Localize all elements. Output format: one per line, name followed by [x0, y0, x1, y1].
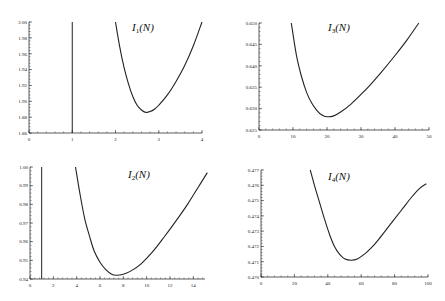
x-tick-label: 2	[114, 137, 117, 142]
x-tick-label: 60	[359, 281, 365, 286]
y-tick-label: 1.00	[19, 165, 28, 170]
y-tick-label: 1.96	[18, 52, 27, 57]
x-tick-label: 10	[144, 283, 150, 288]
x-tick-label: 4	[75, 283, 78, 288]
x-tick-label: 30	[359, 134, 365, 139]
y-tick-label: 0.471	[248, 260, 260, 265]
y-tick-label: 0.650	[246, 21, 258, 26]
y-tick-label: 0.475	[248, 198, 260, 203]
y-tick-label: 0.630	[246, 106, 258, 111]
y-tick-label: 0.470	[248, 275, 260, 280]
x-tick-label: 14	[191, 283, 197, 288]
chart-title: I2(N)	[127, 168, 150, 182]
y-tick-label: 0.96	[19, 239, 28, 244]
y-tick-label: 1.92	[18, 83, 27, 88]
x-tick-label: 10	[291, 134, 297, 139]
y-tick-label: 0.95	[19, 258, 28, 263]
y-tick-label: 0.99	[19, 183, 28, 188]
y-tick-label: 0.474	[248, 214, 260, 219]
x-tick-label: 8	[122, 283, 125, 288]
x-tick-label: 1	[71, 137, 74, 142]
chart-title: I1(N)	[131, 21, 154, 35]
y-tick-label: 1.90	[18, 99, 27, 104]
x-tick-label: 12	[168, 283, 174, 288]
y-tick-label: 0.625	[246, 128, 258, 133]
y-tick-label: 0.472	[248, 244, 260, 249]
y-tick-label: 0.97	[19, 221, 28, 226]
y-tick-label: 0.640	[246, 64, 258, 69]
chart-panel-i4: 0204060801000.4700.4710.4720.4730.4740.4…	[248, 168, 433, 286]
x-tick-label: 6	[99, 283, 102, 288]
chart-figure: 012341.861.881.901.921.941.961.982.00I1(…	[0, 0, 445, 301]
x-tick-label: 0	[258, 134, 261, 139]
x-tick-label: 3	[158, 137, 161, 142]
y-tick-label: 0.98	[19, 202, 28, 207]
x-tick-label: 0	[260, 281, 263, 286]
x-tick-label: 40	[393, 134, 399, 139]
y-tick-label: 0.94	[19, 277, 28, 282]
chart-title: I3(N)	[327, 21, 350, 35]
curve-line	[116, 22, 203, 112]
curve-line	[291, 23, 419, 117]
x-tick-label: 0	[29, 283, 32, 288]
y-tick-label: 1.94	[18, 67, 27, 72]
x-tick-label: 80	[392, 281, 398, 286]
chart-panel-i2: 024681012140.940.950.960.970.980.991.00I…	[19, 165, 207, 288]
y-tick-label: 1.98	[18, 36, 27, 41]
x-tick-label: 50	[427, 134, 433, 139]
chart-panel-i3: 010203040500.6250.6300.6350.6400.6450.65…	[246, 21, 432, 139]
x-tick-label: 20	[292, 281, 298, 286]
x-tick-label: 2	[52, 283, 55, 288]
y-tick-label: 0.635	[246, 85, 258, 90]
y-tick-label: 0.645	[246, 42, 258, 47]
x-tick-label: 40	[325, 281, 331, 286]
y-tick-label: 0.477	[248, 168, 260, 173]
y-tick-label: 1.86	[18, 131, 27, 136]
x-tick-label: 100	[424, 281, 432, 286]
x-tick-label: 20	[325, 134, 331, 139]
y-tick-label: 2.00	[18, 20, 27, 25]
chart-panel-i1: 012341.861.881.901.921.941.961.982.00I1(…	[18, 20, 204, 142]
y-tick-label: 0.476	[248, 183, 260, 188]
curve-line	[310, 170, 426, 260]
curve-line	[76, 167, 208, 275]
y-tick-label: 0.473	[248, 229, 260, 234]
x-tick-label: 4	[201, 137, 204, 142]
y-tick-label: 1.88	[18, 115, 27, 120]
x-tick-label: 0	[28, 137, 31, 142]
chart-title: I4(N)	[327, 170, 350, 184]
